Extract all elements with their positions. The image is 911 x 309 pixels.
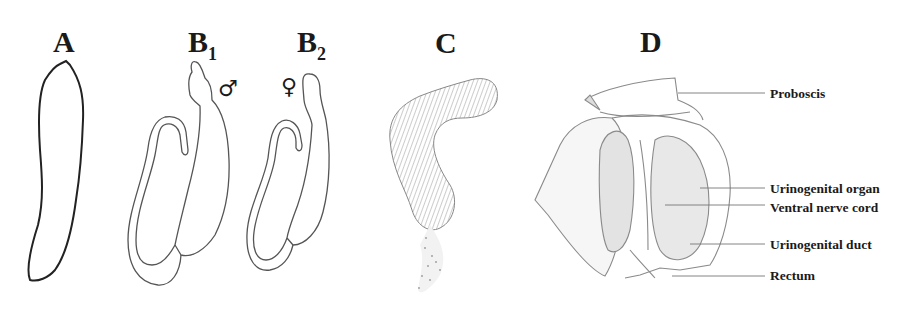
callout-ventral-nerve-cord: Ventral nerve cord xyxy=(770,201,878,215)
specimen-d-drawing xyxy=(535,78,730,278)
panel-b1-subscript: 1 xyxy=(208,44,217,64)
panel-label-b1: B1 xyxy=(188,27,217,63)
specimen-b1-outline xyxy=(128,62,229,285)
specimen-b2-outline xyxy=(247,74,329,270)
female-symbol-icon: ♀ xyxy=(281,76,297,98)
figure: A B1 B2 C D ♂ ♀ Proboscis Urinogenital o… xyxy=(0,0,911,309)
callout-urinogenital-duct: Urinogenital duct xyxy=(770,238,872,252)
panel-label-b2: B2 xyxy=(297,27,326,63)
panel-a-letter: A xyxy=(53,25,75,58)
callout-urinogenital-organ: Urinogenital organ xyxy=(770,182,880,196)
callout-rectum: Rectum xyxy=(770,269,815,283)
panel-b2-letter: B xyxy=(297,25,317,58)
panel-d-letter: D xyxy=(640,25,662,58)
specimen-c-drawing xyxy=(390,79,498,293)
panel-b1-letter: B xyxy=(188,25,208,58)
specimen-a-outline xyxy=(28,61,83,281)
callout-proboscis: Proboscis xyxy=(770,87,825,101)
panel-c-letter: C xyxy=(435,26,457,59)
panel-label-c: C xyxy=(435,28,457,58)
panel-label-d: D xyxy=(640,27,662,57)
male-symbol-icon: ♂ xyxy=(218,78,238,100)
panel-label-a: A xyxy=(53,27,75,57)
panel-b2-subscript: 2 xyxy=(317,44,326,64)
